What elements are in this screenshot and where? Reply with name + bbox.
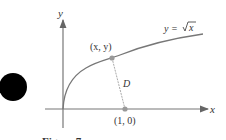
black-dot: [0, 73, 27, 101]
sqrt-distance-diagram: y x (x, y) D (1, 0) y = x Figure 7: [0, 0, 226, 140]
figure-caption: Figure 7: [42, 135, 82, 140]
y-axis-label: y: [57, 7, 63, 19]
svg-text:y =: y =: [163, 23, 178, 34]
sqrt-curve: [63, 34, 203, 109]
distance-label: D: [122, 78, 131, 89]
curve-point: [109, 55, 114, 60]
x-axis-label: x: [209, 103, 215, 115]
fixed-point-label: (1, 0): [114, 115, 136, 127]
curve-equation-label: y = x: [163, 22, 196, 34]
fixed-point: [122, 106, 127, 111]
svg-text:x: x: [188, 22, 194, 33]
curve-point-label: (x, y): [90, 41, 112, 53]
